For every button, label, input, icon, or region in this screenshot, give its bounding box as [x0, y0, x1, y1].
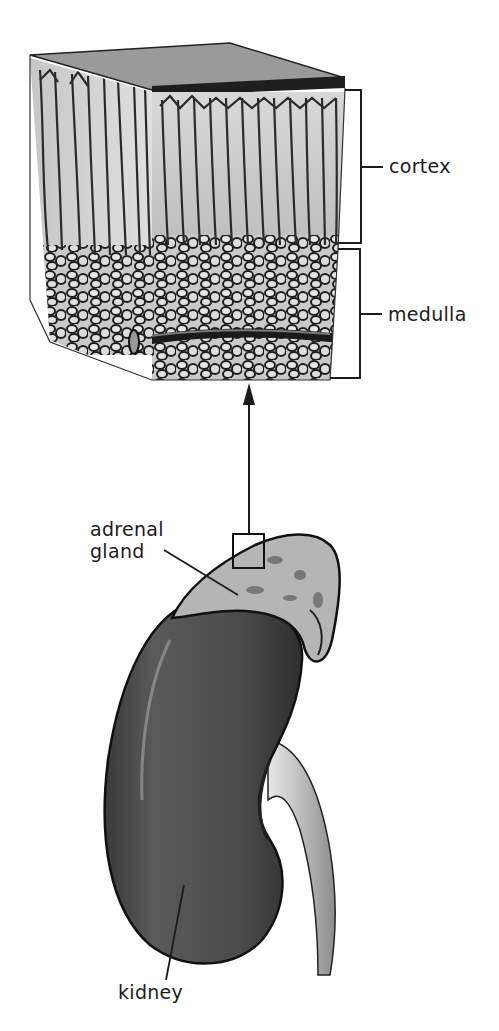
- cortex-label: cortex: [389, 155, 451, 177]
- medulla-bracket: [330, 249, 382, 378]
- adrenal-label-line1: adrenal: [90, 518, 164, 540]
- adrenal-label-line2: gland: [90, 540, 164, 562]
- kidney-illustration: [105, 599, 336, 975]
- cortex-bracket: [338, 90, 383, 243]
- block-front-face: [148, 88, 350, 385]
- kidney-label: kidney: [118, 981, 183, 1003]
- adrenal-gland-label: adrenal gland: [90, 518, 164, 562]
- medulla-label: medulla: [388, 303, 467, 325]
- block-side-face: [28, 55, 154, 355]
- magnification-arrow: [243, 383, 255, 534]
- adrenal-tissue-block: [28, 43, 350, 385]
